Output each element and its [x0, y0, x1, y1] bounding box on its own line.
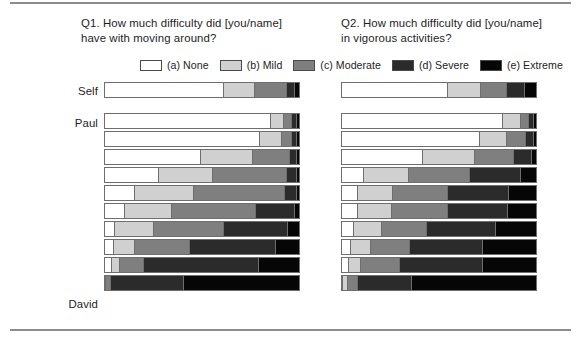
question-1-heading: Q1. How much difficulty did [you/name] h…	[81, 16, 316, 45]
bar-segment	[507, 204, 537, 218]
stacked-bar-row	[104, 185, 300, 201]
stacked-bar-row	[104, 113, 300, 129]
stacked-bar-row	[341, 239, 537, 255]
legend-swatch-icon	[220, 60, 242, 71]
bar-segment	[342, 222, 353, 236]
stacked-bar-row	[341, 275, 537, 291]
bar-segment	[134, 186, 194, 200]
stacked-bar-row	[341, 149, 537, 165]
bar-segment	[200, 150, 252, 164]
bar-segment	[105, 114, 270, 128]
bar-segment	[342, 204, 357, 218]
bar-segment	[474, 150, 513, 164]
bar-segment	[533, 132, 536, 146]
bar-segment	[158, 168, 212, 182]
bar-block-self-q2	[341, 82, 537, 98]
bar-block-group-q1	[104, 113, 300, 291]
bar-segment	[342, 186, 357, 200]
bar-segment	[105, 204, 124, 218]
legend-label: (c) Moderate	[320, 59, 381, 71]
stacked-bar-row	[104, 131, 300, 147]
legend-label: (d) Severe	[419, 59, 469, 71]
bar-segment	[223, 222, 287, 236]
bar-segment	[110, 276, 184, 290]
bar-segment	[296, 150, 299, 164]
bar-segment	[447, 204, 507, 218]
bar-segment	[347, 276, 357, 290]
legend-swatch-icon	[140, 60, 162, 71]
bar-segment	[342, 240, 350, 254]
stacked-bar-row	[104, 275, 300, 291]
bar-segment	[254, 83, 285, 97]
bar-segment	[348, 258, 360, 272]
bar-segment	[189, 240, 276, 254]
stacked-bar-row	[341, 131, 537, 147]
bar-segment	[171, 204, 256, 218]
bar-segment	[342, 83, 447, 97]
bar-segment	[524, 83, 536, 97]
bar-segment	[447, 83, 480, 97]
bar-segment	[294, 83, 299, 97]
bar-segment	[119, 258, 143, 272]
bar-segment	[426, 222, 495, 236]
legend-swatch-icon	[293, 60, 315, 71]
question-2-heading: Q2. How much difficulty did [you/name] i…	[341, 16, 576, 45]
stacked-bar-row	[104, 203, 300, 219]
row-label-self: Self	[28, 85, 98, 97]
stacked-bar-row	[341, 82, 537, 98]
bar-segment	[495, 222, 536, 236]
bar-segment	[105, 168, 158, 182]
bar-segment	[363, 168, 408, 182]
bar-segment	[287, 222, 299, 236]
bar-segment	[114, 222, 153, 236]
bar-segment	[270, 114, 282, 128]
bar-segment	[350, 240, 370, 254]
legend-item: (c) Moderate	[293, 59, 381, 71]
bar-segment	[409, 240, 482, 254]
bar-segment	[258, 258, 299, 272]
stacked-bar-row	[341, 167, 537, 183]
bar-segment	[111, 258, 120, 272]
bar-segment	[408, 168, 470, 182]
bar-segment	[252, 150, 289, 164]
bar-segment	[286, 83, 295, 97]
figure-container: Q1. How much difficulty did [you/name] h…	[0, 0, 581, 342]
legend-item: (a) None	[140, 59, 209, 71]
top-rule	[10, 2, 571, 4]
bar-segment	[134, 240, 188, 254]
stacked-bar-row	[104, 239, 300, 255]
legend-label: (b) Mild	[247, 59, 283, 71]
bar-segment	[502, 114, 520, 128]
bar-segment	[357, 276, 411, 290]
bar-segment	[283, 114, 292, 128]
legend-item: (e) Extreme	[480, 59, 563, 71]
row-label-paul: Paul	[28, 117, 98, 129]
bar-segment	[183, 276, 299, 290]
bar-segment	[275, 240, 299, 254]
stacked-bar-row	[104, 82, 300, 98]
bar-segment	[105, 150, 200, 164]
bar-segment	[411, 276, 536, 290]
bar-segment	[342, 168, 363, 182]
bar-segment	[533, 114, 536, 128]
bar-segment	[399, 258, 482, 272]
bar-segment	[480, 83, 506, 97]
bar-segment	[469, 168, 519, 182]
bar-segment	[105, 222, 114, 236]
bar-segment	[520, 168, 536, 182]
bar-segment	[506, 132, 524, 146]
bar-segment	[286, 168, 296, 182]
bar-segment	[284, 186, 296, 200]
bar-segment	[124, 204, 171, 218]
bar-segment	[525, 132, 534, 146]
stacked-bar-row	[341, 185, 537, 201]
bar-segment	[153, 222, 222, 236]
bottom-rule	[10, 329, 571, 331]
bar-segment	[296, 114, 299, 128]
bar-segment	[342, 114, 502, 128]
bar-segment	[520, 114, 529, 128]
bar-segment	[143, 258, 258, 272]
bar-segment	[105, 83, 223, 97]
bar-segment	[193, 186, 283, 200]
bar-segment	[392, 186, 446, 200]
